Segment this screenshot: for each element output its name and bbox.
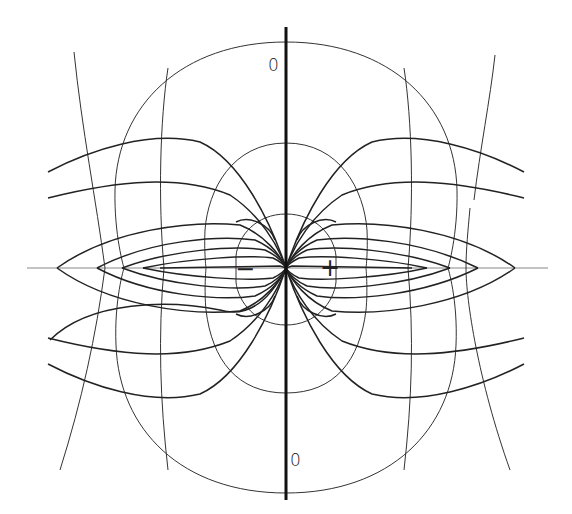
zero-label-top: 0 bbox=[268, 57, 279, 74]
positive-charge-label: + bbox=[320, 256, 340, 280]
zero-label-bottom: 0 bbox=[290, 452, 301, 469]
dipole-field-diagram bbox=[0, 0, 572, 514]
negative-charge-label: − bbox=[235, 257, 255, 281]
